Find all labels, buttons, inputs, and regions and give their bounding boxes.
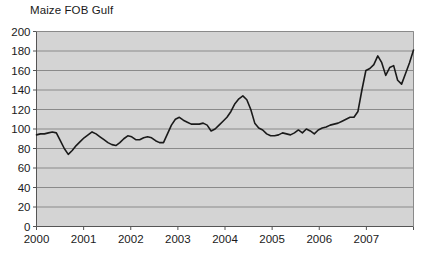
y-tick-label: 40 [18,182,31,194]
y-tick-label: 80 [18,143,31,155]
y-tick-label: 180 [11,45,30,57]
y-tick-label: 60 [18,162,31,174]
x-tick-label: 2002 [118,233,144,245]
x-tick-label: 2003 [165,233,191,245]
y-tick-label: 140 [11,84,30,96]
x-tick-label: 2004 [212,233,238,245]
x-tick-label: 2000 [24,233,50,245]
x-tick-label: 2006 [306,233,332,245]
x-tick-label: 2005 [259,233,285,245]
y-axis-tick-labels: 020406080100120140160180200 [11,26,30,233]
y-tick-label: 160 [11,65,30,77]
x-tick-label: 2001 [71,233,97,245]
x-tick-label: 2007 [354,233,380,245]
chart-figure: Maize FOB Gulf 0204060801001201401601802… [0,0,424,260]
y-tick-label: 20 [18,201,31,213]
x-axis-tick-labels: 20002001200220032004200520062007 [24,233,379,245]
y-tick-label: 100 [11,123,30,135]
y-tick-label: 120 [11,104,30,116]
y-tick-label: 0 [24,221,30,233]
line-chart-plot: 020406080100120140160180200 200020012002… [0,0,424,260]
y-tick-label: 200 [11,26,30,38]
